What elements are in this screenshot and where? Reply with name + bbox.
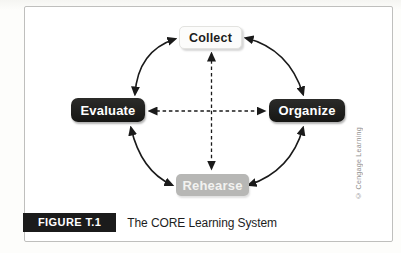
figure-title: The CORE Learning System	[127, 216, 277, 230]
arc-organize-rehearse	[249, 128, 303, 185]
figure-caption: FIGURE T.1 The CORE Learning System	[23, 213, 277, 232]
copyright-credit: © Cengage Learning	[355, 127, 362, 199]
node-rehearse: Rehearse	[176, 174, 249, 196]
arc-collect-organize	[246, 38, 303, 94]
node-collect-label: Collect	[189, 31, 232, 45]
node-evaluate: Evaluate	[71, 98, 145, 122]
arc-evaluate-collect	[135, 39, 175, 94]
node-rehearse-label: Rehearse	[182, 178, 242, 193]
node-organize: Organize	[269, 99, 345, 122]
arc-rehearse-evaluate	[131, 128, 172, 185]
node-evaluate-label: Evaluate	[80, 103, 135, 118]
figure-panel: Collect Organize Rehearse Evaluate © Cen…	[24, 6, 393, 242]
node-collect: Collect	[179, 26, 242, 49]
node-organize-label: Organize	[278, 103, 335, 118]
figure-label: FIGURE T.1	[23, 213, 116, 232]
page-background: Collect Organize Rehearse Evaluate © Cen…	[0, 0, 401, 253]
